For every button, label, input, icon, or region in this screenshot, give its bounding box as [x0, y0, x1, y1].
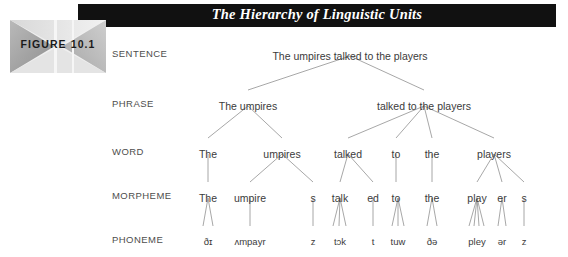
tree-node-morpheme: er	[497, 192, 506, 204]
tree-node-phoneme: tuw	[391, 236, 406, 247]
tree-node-morpheme: The	[199, 192, 217, 204]
tree-node-morpheme: ed	[367, 192, 379, 204]
tree-node-morpheme: s	[521, 192, 526, 204]
row-label-morpheme: MORPHEME	[112, 190, 172, 201]
figure-header-bar: The Hierarchy of Linguistic Units	[78, 4, 556, 27]
tree-node-phoneme: tɔk	[334, 236, 346, 247]
tree-node-phoneme: ðə	[427, 236, 438, 247]
tree-node-word: the	[425, 148, 440, 160]
tree-node-word: players	[477, 148, 511, 160]
tree-node-phoneme: z	[311, 236, 316, 247]
tree-node-morpheme: play	[467, 192, 486, 204]
row-label-phoneme: PHONEME	[112, 234, 163, 245]
tree-node-word: talked	[334, 148, 362, 160]
tree-node-word: umpires	[263, 148, 300, 160]
tree-node-phoneme: t	[372, 236, 375, 247]
figure-number-badge: FIGURE 10.1	[10, 20, 106, 73]
tree-node-phrase: The umpires	[219, 100, 277, 112]
figure-title: The Hierarchy of Linguistic Units	[78, 6, 556, 23]
tree-node-phoneme: ʌmpayr	[234, 236, 265, 247]
tree-node-phoneme: z	[522, 236, 527, 247]
tree-node-phoneme: ðɪ	[204, 236, 213, 247]
tree-node-word: to	[392, 148, 401, 160]
tree-node-phoneme: pley	[468, 236, 485, 247]
tree-node-morpheme: to	[392, 192, 401, 204]
row-label-phrase: PHRASE	[112, 98, 154, 109]
tree-node-morpheme: talk	[332, 192, 348, 204]
row-label-word: WORD	[112, 146, 144, 157]
tree-node-morpheme: umpire	[234, 192, 266, 204]
tree-node-phoneme: ər	[498, 236, 506, 247]
tree-node-phrase: talked to the players	[377, 100, 471, 112]
tree-node-word: The	[199, 148, 217, 160]
tree-node-morpheme: s	[310, 192, 315, 204]
row-label-sentence: SENTENCE	[112, 48, 167, 59]
tree-node-morpheme: the	[425, 192, 440, 204]
figure-container: The Hierarchy of Linguistic Units	[0, 0, 568, 257]
tree-node-sentence: The umpires talked to the players	[272, 50, 427, 62]
figure-number-label: FIGURE 10.1	[10, 38, 106, 50]
